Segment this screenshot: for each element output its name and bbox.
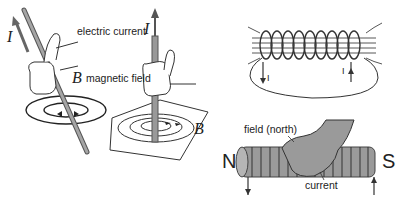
current-up-arrow-icon xyxy=(348,68,354,74)
north-pole-label: N xyxy=(222,150,236,173)
current-symbol-vertical: I xyxy=(144,20,149,38)
diagram-graphics xyxy=(0,0,404,201)
right-hand-rule-diagram: I B electric current I magnetic field B … xyxy=(0,0,404,201)
current-up-arrow-icon xyxy=(371,177,377,183)
field-symbol-tilted: B xyxy=(72,69,82,87)
electric-current-label: electric current xyxy=(77,25,146,37)
south-pole-label: S xyxy=(382,150,395,173)
solenoid-coils xyxy=(260,31,360,59)
current-symbol-tilted: I xyxy=(7,28,12,46)
current-down-arrow-icon xyxy=(245,189,251,195)
field-symbol-vertical: B xyxy=(194,120,204,138)
current-arrow-icon xyxy=(16,22,28,52)
current-label: current xyxy=(305,179,338,191)
field-north-label: field (north) xyxy=(244,123,297,135)
current-in-symbol: I xyxy=(267,73,270,83)
magnetic-field-label: magnetic field xyxy=(86,72,151,84)
current-down-arrow-icon xyxy=(260,78,266,84)
solenoid-field-panel xyxy=(248,23,382,98)
current-out-symbol: I xyxy=(342,66,345,76)
